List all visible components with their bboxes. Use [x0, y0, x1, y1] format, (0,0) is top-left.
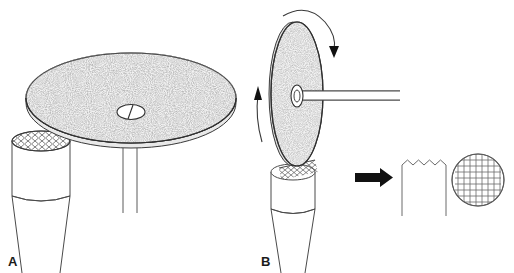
- abrasive-disc-a: [26, 53, 236, 143]
- grid-sectioned-circle: [452, 154, 504, 206]
- shaft-body-b: [297, 91, 400, 100]
- panel-label-a: A: [8, 254, 18, 269]
- disc-center-hub-a: [117, 105, 145, 120]
- scientific-diagram: A: [0, 0, 514, 273]
- panel-label-b: B: [261, 254, 270, 269]
- shaft-hub-inner-b: [294, 90, 300, 102]
- serrated-profile-shape: [402, 160, 446, 216]
- serrated-specimen-profile: [402, 160, 446, 216]
